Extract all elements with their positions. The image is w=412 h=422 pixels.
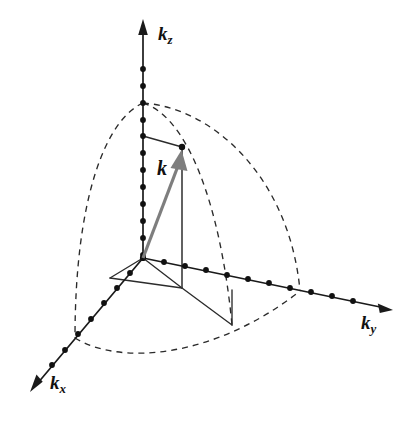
lattice-dot [88, 316, 94, 322]
lattice-dot [140, 218, 146, 224]
lattice-dot [101, 300, 107, 306]
lattice-dot [140, 100, 146, 106]
construction-lines [110, 136, 232, 325]
lattice-dot [140, 201, 146, 207]
kz-label-sub: z [168, 32, 173, 47]
ky-label-base: k [361, 312, 371, 333]
k-vector-arrowhead [171, 150, 188, 171]
arc-x-to-y-base-dashed [75, 291, 300, 353]
lattice-dot [140, 83, 146, 89]
k-vector-shaft [143, 166, 178, 258]
kx-label-sub: x [60, 381, 66, 396]
lattice-dot [287, 285, 293, 291]
lattice-dot [140, 235, 146, 241]
lattice-dot [203, 267, 209, 273]
kspace-figure: kz ky kx k [0, 0, 412, 422]
lattice-dot [245, 276, 251, 282]
lattice-dot [140, 133, 146, 139]
lattice-dot [127, 270, 133, 276]
dashed-shell-arcs [75, 103, 300, 353]
lattice-dot [140, 117, 146, 123]
kz-label-base: k [158, 23, 168, 44]
projection-to-arc-foot-line [182, 288, 232, 325]
lattice-dot [224, 272, 230, 278]
lattice-dot [140, 66, 146, 72]
lattice-dot [114, 285, 120, 291]
lattice-dot [329, 293, 335, 299]
ky-label-sub: y [371, 321, 377, 336]
k-vector-label: k [157, 158, 167, 178]
lattice-dot [350, 298, 356, 304]
k-label-base: k [157, 157, 167, 179]
ky-axis-label: ky [361, 313, 376, 336]
lattice-dot [49, 362, 55, 368]
k-vector-tip-dot [179, 144, 185, 150]
lattice-dot [140, 184, 146, 190]
lattice-dot [140, 167, 146, 173]
arc-z-to-x-dashed [75, 103, 143, 338]
lattice-dot [75, 331, 81, 337]
lattice-dot [308, 289, 314, 295]
kx-axis-arrowhead [30, 374, 43, 392]
kspace-diagram-canvas [0, 0, 412, 422]
axis-kx [30, 258, 143, 392]
kz-axis-arrowhead [138, 19, 148, 35]
z-node-to-k-tip-line [143, 136, 182, 147]
lattice-dot [182, 263, 188, 269]
lattice-dot [62, 347, 68, 353]
origin-to-xaxis-node-line [110, 258, 143, 278]
kx-axis-label: kx [50, 373, 66, 396]
ky-axis-line [143, 258, 385, 308]
lattice-dot [161, 259, 167, 265]
ky-axis-arrowhead [378, 304, 393, 314]
kx-label-base: k [50, 372, 60, 393]
lattice-dot [140, 150, 146, 156]
lattice-dot [266, 280, 272, 286]
kz-axis-label: kz [158, 24, 173, 47]
